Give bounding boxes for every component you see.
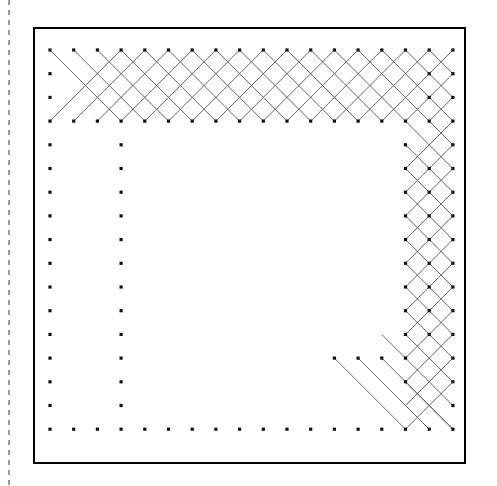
grid-dot [238, 120, 241, 123]
grid-dot [72, 428, 75, 431]
grid-dot [120, 214, 123, 217]
grid-dot [214, 120, 217, 123]
grid-dot [309, 48, 312, 51]
grid-dot [333, 428, 336, 431]
grid-dot [191, 428, 194, 431]
grid-dot [428, 191, 431, 194]
grid-dot [428, 309, 431, 312]
grid-dot [451, 238, 454, 241]
grid-dot [404, 285, 407, 288]
grid-dot [48, 285, 51, 288]
grid-dot [333, 357, 336, 360]
grid-dot [428, 285, 431, 288]
grid-dot [167, 120, 170, 123]
grid-dot [72, 120, 75, 123]
grid-dot [72, 48, 75, 51]
grid-dot [120, 285, 123, 288]
lattice-diagram-svg [0, 0, 497, 486]
grid-dot [451, 309, 454, 312]
grid-dot [48, 380, 51, 383]
grid-dot [262, 48, 265, 51]
grid-dot [404, 167, 407, 170]
grid-dot [404, 333, 407, 336]
grid-dot [120, 428, 123, 431]
grid-dot [48, 404, 51, 407]
grid-dot [451, 143, 454, 146]
grid-dot [357, 120, 360, 123]
grid-dot [451, 262, 454, 265]
grid-dot [404, 380, 407, 383]
grid-dot [380, 357, 383, 360]
figure-canvas [0, 0, 497, 486]
grid-dot [120, 404, 123, 407]
grid-dot [120, 309, 123, 312]
grid-dot [357, 428, 360, 431]
grid-dot [285, 48, 288, 51]
grid-dot [428, 96, 431, 99]
grid-dot [451, 214, 454, 217]
grid-dot [48, 238, 51, 241]
grid-dot [428, 167, 431, 170]
grid-dot [451, 333, 454, 336]
grid-dot [451, 191, 454, 194]
grid-dot [428, 333, 431, 336]
grid-dot [48, 262, 51, 265]
grid-dot [120, 380, 123, 383]
grid-dot [48, 309, 51, 312]
grid-dot [404, 48, 407, 51]
grid-dot [380, 120, 383, 123]
grid-dot [404, 120, 407, 123]
grid-dot [120, 191, 123, 194]
grid-dot [48, 96, 51, 99]
grid-dot [380, 428, 383, 431]
grid-dot [451, 285, 454, 288]
grid-dot [404, 214, 407, 217]
grid-dot [451, 48, 454, 51]
grid-dot [214, 48, 217, 51]
grid-dot [309, 120, 312, 123]
grid-dot [120, 262, 123, 265]
grid-dot [48, 167, 51, 170]
grid-dot [238, 428, 241, 431]
grid-dot [451, 72, 454, 75]
grid-dot [451, 404, 454, 407]
grid-dot [451, 428, 454, 431]
grid-dot [404, 309, 407, 312]
grid-dot [262, 428, 265, 431]
grid-dot [48, 120, 51, 123]
grid-dot [143, 48, 146, 51]
grid-dot [120, 357, 123, 360]
grid-dot [48, 191, 51, 194]
grid-dot [120, 143, 123, 146]
grid-dot [404, 262, 407, 265]
grid-dot [285, 428, 288, 431]
grid-dot [167, 428, 170, 431]
grid-dot [120, 238, 123, 241]
grid-dot [48, 333, 51, 336]
grid-dot [48, 143, 51, 146]
grid-dot [404, 238, 407, 241]
grid-dot [285, 120, 288, 123]
grid-dot [428, 238, 431, 241]
grid-dot [428, 72, 431, 75]
grid-dot [451, 357, 454, 360]
grid-dot [428, 262, 431, 265]
grid-dot [214, 428, 217, 431]
grid-dot [48, 357, 51, 360]
grid-dot [333, 120, 336, 123]
grid-dot [48, 428, 51, 431]
grid-dot [120, 120, 123, 123]
grid-dot [48, 72, 51, 75]
grid-dot [96, 428, 99, 431]
grid-dot [451, 380, 454, 383]
grid-dot [404, 191, 407, 194]
grid-dot [191, 48, 194, 51]
grid-dot [380, 48, 383, 51]
grid-dot [143, 120, 146, 123]
grid-dot [428, 48, 431, 51]
grid-dot [262, 120, 265, 123]
grid-dot [404, 428, 407, 431]
grid-dot [96, 120, 99, 123]
grid-dot [357, 357, 360, 360]
grid-dot [428, 120, 431, 123]
